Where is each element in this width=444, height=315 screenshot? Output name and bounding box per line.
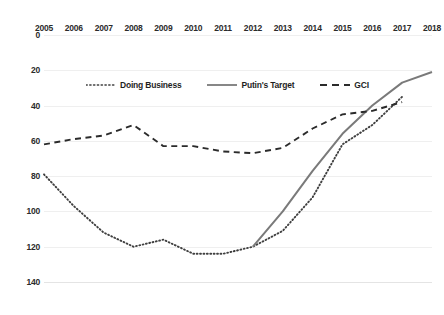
x-axis-tick-2011: 2011 <box>214 23 232 33</box>
y-axis-tick-80: 80 <box>10 171 40 181</box>
x-axis-tick-2005: 2005 <box>35 23 53 33</box>
legend-swatch-solid-icon <box>207 81 237 89</box>
series-line-putin-s-target <box>253 72 432 247</box>
legend-item-doing-business: Doing Business <box>86 80 181 90</box>
legend-swatch-dashed-icon <box>320 81 350 89</box>
x-axis-tick-2014: 2014 <box>304 23 322 33</box>
chart-legend: Doing Business Putin's Target GCI <box>86 80 369 90</box>
legend-label-doing-business: Doing Business <box>120 80 181 90</box>
plot-area: 2005200620072008200920102011201220132014… <box>44 35 432 282</box>
x-axis-tick-2012: 2012 <box>244 23 262 33</box>
x-axis-tick-2017: 2017 <box>393 23 411 33</box>
x-axis-tick-2006: 2006 <box>65 23 83 33</box>
chart-container: 020406080100120140 200520062007200820092… <box>0 0 444 315</box>
legend-label-gci: GCI <box>354 80 369 90</box>
x-axis-tick-2016: 2016 <box>363 23 381 33</box>
gridline-140 <box>44 282 432 283</box>
x-axis-labels: 2005200620072008200920102011201220132014… <box>44 11 432 25</box>
x-axis-tick-2009: 2009 <box>154 23 172 33</box>
series-line-doing-business <box>44 97 402 254</box>
y-axis-tick-20: 20 <box>10 65 40 75</box>
x-axis-tick-2013: 2013 <box>274 23 292 33</box>
legend-swatch-dotted-icon <box>86 81 116 89</box>
x-axis-tick-2008: 2008 <box>124 23 142 33</box>
x-axis-tick-2010: 2010 <box>184 23 202 33</box>
y-axis-tick-60: 60 <box>10 136 40 146</box>
x-axis-tick-2015: 2015 <box>333 23 351 33</box>
y-axis-tick-100: 100 <box>10 206 40 216</box>
y-axis-tick-140: 140 <box>10 277 40 287</box>
x-axis-tick-2018: 2018 <box>423 23 441 33</box>
x-axis-tick-2007: 2007 <box>95 23 113 33</box>
legend-item-putins-target: Putin's Target <box>207 80 294 90</box>
y-axis-tick-40: 40 <box>10 101 40 111</box>
legend-label-putins-target: Putin's Target <box>241 80 294 90</box>
series-lines <box>44 35 432 282</box>
legend-item-gci: GCI <box>320 80 369 90</box>
y-axis-tick-120: 120 <box>10 242 40 252</box>
